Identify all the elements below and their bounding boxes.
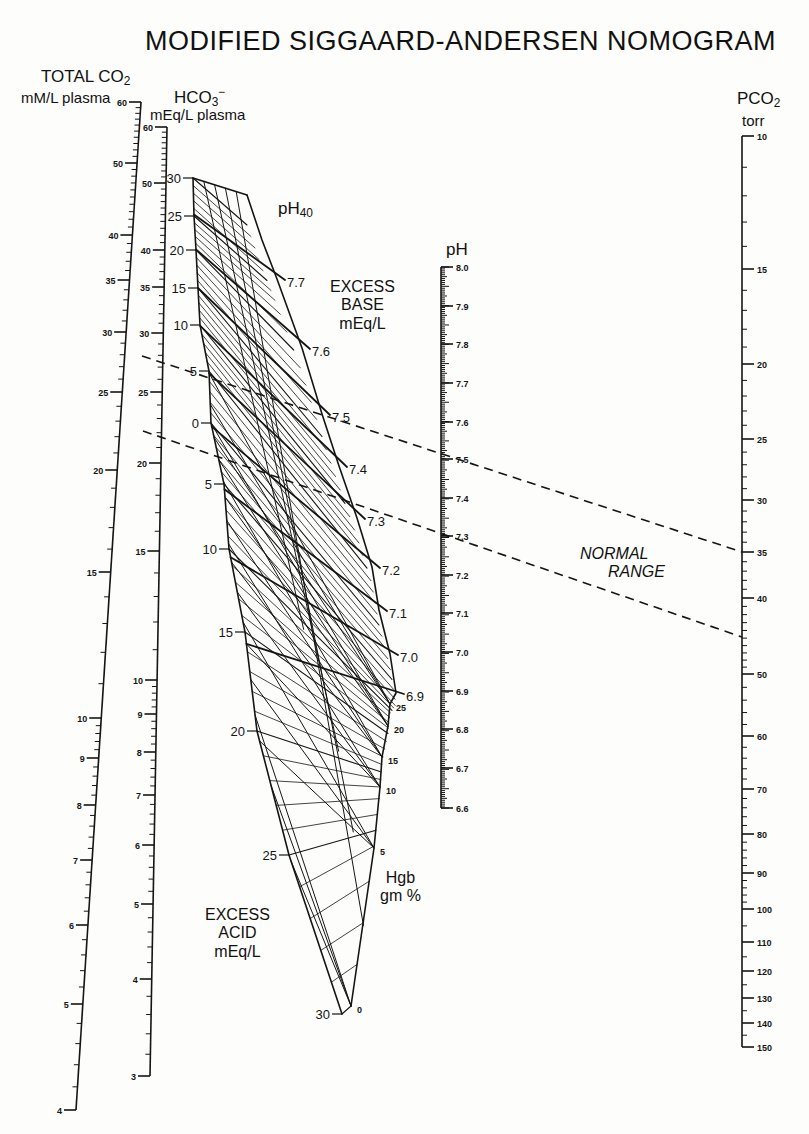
- chart-title: MODIFIED SIGGAARD-ANDERSEN NOMOGRAM: [145, 28, 776, 55]
- tick-label: 30: [102, 328, 112, 338]
- excess-base-tick-label: 15: [172, 281, 186, 296]
- excess-acid-line3: mEq/L: [205, 943, 270, 961]
- hgb-line: [227, 520, 382, 757]
- hgb-tick-label: 25: [396, 703, 406, 713]
- tick-label: 6: [135, 841, 140, 851]
- ph40-isopleth-label: 7.0: [400, 650, 418, 665]
- tick-label: 9: [80, 754, 85, 764]
- ph40-isopleth-label: 7.4: [349, 462, 367, 477]
- hgb-tick-label: 20: [394, 725, 404, 735]
- hgb-line: [260, 741, 374, 848]
- ph40-isopleth-label: 7.7: [287, 275, 305, 290]
- pco2-unit: torr: [742, 113, 765, 128]
- excess-base-line: [289, 830, 376, 855]
- excess-base-line: [310, 881, 369, 919]
- tick-label: 3: [131, 1072, 136, 1082]
- ph40-subscript: 40: [300, 206, 313, 220]
- ph40-isopleth-label: 7.1: [389, 606, 407, 621]
- tick-label: 20: [93, 466, 103, 476]
- hgb-line: [271, 786, 351, 1006]
- total-co2-subscript: 2: [124, 74, 131, 88]
- tick-label: 70: [757, 785, 767, 795]
- tick-label: 35: [106, 276, 116, 286]
- tick-label: 20: [757, 360, 767, 370]
- excess-base-line: [255, 711, 382, 764]
- nomogram-canvas: 6050403530252015109876546050403530252015…: [0, 0, 809, 1134]
- tick-label: 130: [757, 994, 772, 1004]
- hgb-line: [229, 544, 380, 787]
- tick-label: 7.8: [456, 340, 469, 350]
- hgb-line2: gm %: [380, 887, 421, 905]
- tick-label: 10: [133, 676, 143, 686]
- tick-label: 120: [757, 967, 772, 977]
- normal-range-line1: NORMAL: [580, 545, 665, 563]
- tick-label: 6.9: [456, 687, 469, 697]
- tick-label: 50: [113, 159, 123, 169]
- tick-label: 30: [139, 329, 149, 339]
- hgb-tick-label: 10: [386, 786, 396, 796]
- tick-label: 90: [757, 869, 767, 879]
- tick-label: 7.9: [456, 302, 469, 312]
- tick-label: 10: [757, 132, 767, 142]
- normal-range-label: NORMAL RANGE: [580, 545, 665, 582]
- tick-label: 25: [98, 388, 108, 398]
- hgb-tick-label: 5: [380, 847, 385, 857]
- excess-base-tick-label: 30: [167, 171, 181, 186]
- total-co2-label: TOTAL CO: [41, 67, 124, 86]
- tick-label: 30: [757, 496, 767, 506]
- tick-label: 60: [757, 732, 767, 742]
- pco2-subscript: 2: [774, 96, 781, 110]
- ph40-isopleth-label: 7.6: [312, 344, 330, 359]
- hco3-superscript: −: [218, 85, 225, 99]
- excess-acid-label: EXCESS ACID mEq/L: [205, 906, 270, 961]
- hgb-line: [225, 497, 388, 726]
- excess-base-tick-label: 20: [231, 724, 245, 739]
- normal-range-line: [142, 356, 742, 552]
- tick-label: 7.0: [456, 648, 469, 658]
- tick-label: 9: [137, 710, 142, 720]
- pco2-label: PCO: [737, 89, 774, 108]
- excess-base-tick-label: 10: [203, 542, 217, 557]
- excess-base-line: [321, 923, 363, 951]
- tick-label: 7: [136, 791, 141, 801]
- excess-base-tick-label: 10: [174, 318, 188, 333]
- tick-label: 60: [117, 98, 127, 108]
- tick-label: 6.6: [456, 804, 469, 814]
- tick-label: 40: [757, 594, 767, 604]
- hgb-tick-label: 0: [357, 1005, 362, 1015]
- excess-base-line: [196, 258, 300, 368]
- hgb-line1: Hgb: [380, 869, 421, 887]
- excess-base-tick-label: 25: [168, 209, 182, 224]
- ph40-label: pH40: [278, 200, 313, 220]
- excess-base-line: [242, 615, 389, 728]
- tick-label: 8.0: [456, 263, 469, 273]
- tick-label: 7.2: [456, 571, 469, 581]
- tick-label: 20: [137, 459, 147, 469]
- tick-label: 5: [64, 1000, 69, 1010]
- excess-base-line: [342, 1006, 351, 1014]
- tick-label: 7.5: [456, 455, 469, 465]
- excess-base-line: [257, 731, 381, 772]
- tick-label: 7.6: [456, 418, 469, 428]
- tick-label: 5: [134, 900, 139, 910]
- excess-acid-line2: ACID: [205, 924, 270, 942]
- excess-acid-line1: EXCESS: [205, 906, 270, 924]
- tick-label: 80: [757, 830, 767, 840]
- tick-label: 8: [77, 801, 82, 811]
- hgb-tick-label: 15: [388, 756, 398, 766]
- excess-base-tick-label: 30: [316, 1007, 330, 1022]
- tick-label: 25: [757, 435, 767, 445]
- tick-label: 6.8: [456, 725, 469, 735]
- tick-label: 10: [77, 714, 87, 724]
- excess-base-tick-label: 15: [219, 625, 233, 640]
- ph40-isopleth-label: 7.3: [367, 514, 385, 529]
- tick-label: 7.7: [456, 379, 469, 389]
- ph40-isopleth-label: 6.9: [406, 689, 424, 704]
- excess-base-tick-label: 5: [205, 477, 212, 492]
- excess-base-line3: mEq/L: [330, 315, 395, 333]
- tick-label: 40: [108, 231, 118, 241]
- tick-label: 110: [757, 938, 772, 948]
- excess-base-tick-label: 25: [263, 848, 277, 863]
- tick-label: 7: [73, 856, 78, 866]
- excess-base-line: [300, 846, 375, 887]
